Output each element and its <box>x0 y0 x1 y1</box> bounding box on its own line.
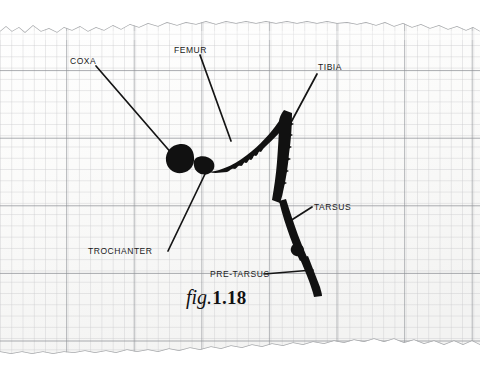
figure-page: COXA FEMUR TIBIA TARSUS TROCHANTER PRE-T… <box>0 0 480 376</box>
label-femur: FEMUR <box>174 46 207 55</box>
figure-caption-word: fig. <box>186 286 212 308</box>
figure-caption: fig.1.18 <box>186 287 247 307</box>
label-tarsus: TARSUS <box>314 203 351 212</box>
label-coxa: COXA <box>70 57 96 66</box>
label-pre-tarsus: PRE-TARSUS <box>210 270 270 279</box>
top-edge-highlight <box>0 31 480 40</box>
label-trochanter: TROCHANTER <box>88 247 153 256</box>
label-tibia: TIBIA <box>318 63 342 72</box>
figure-caption-number: 1.18 <box>212 287 246 308</box>
